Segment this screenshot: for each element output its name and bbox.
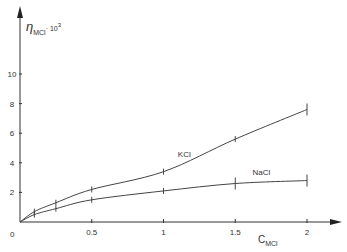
series-kcl: KCl bbox=[20, 104, 307, 222]
y-axis-label: ηMCl· 103 bbox=[26, 19, 62, 36]
y-tick-label: 2 bbox=[10, 188, 15, 197]
chart-container: 00.511.52246810 KClNaCl ηMCl· 103 CMCl bbox=[0, 0, 347, 252]
ticks: 00.511.52246810 bbox=[8, 70, 310, 239]
y-axis-arrow-icon bbox=[17, 6, 23, 18]
series-line bbox=[20, 181, 307, 222]
series-label: KCl bbox=[178, 150, 191, 159]
x-tick-label: 0.5 bbox=[86, 228, 98, 237]
series-nacl: NaCl bbox=[20, 168, 307, 222]
x-tick-label: 1.5 bbox=[230, 228, 242, 237]
x-axis-label: CMCl bbox=[258, 234, 278, 247]
x-tick-label: 2 bbox=[305, 228, 310, 237]
x-axis-arrow-icon bbox=[330, 219, 342, 225]
series-label: NaCl bbox=[252, 168, 270, 177]
origin-label: 0 bbox=[10, 230, 15, 239]
y-tick-label: 6 bbox=[10, 129, 15, 138]
y-tick-label: 8 bbox=[10, 100, 15, 109]
y-tick-label: 10 bbox=[8, 70, 17, 79]
y-tick-label: 4 bbox=[10, 159, 15, 168]
line-chart: 00.511.52246810 KClNaCl ηMCl· 103 CMCl bbox=[0, 0, 347, 252]
axis-labels: ηMCl· 103 CMCl bbox=[26, 19, 278, 247]
x-tick-label: 1 bbox=[161, 228, 166, 237]
series-line bbox=[20, 110, 307, 222]
series-group: KClNaCl bbox=[20, 104, 307, 222]
